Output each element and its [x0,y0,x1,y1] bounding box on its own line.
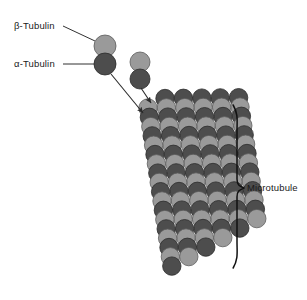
tubulin-subunit [231,219,249,237]
tubulin-subunit [248,209,266,227]
diagram-canvas: β-Tubulin α-Tubulin Microtubule [0,0,307,300]
microtubule-label: Microtubule [247,182,298,193]
alpha-tubulin-label: α-Tubulin [14,58,55,69]
free-alpha-tubulin-subunit [130,69,150,89]
beta-tubulin-label: β-Tubulin [14,20,55,31]
tubulin-subunit [163,257,181,275]
tubulin-subunit [197,238,215,256]
microtubule-figure: β-Tubulin α-Tubulin Microtubule [0,0,307,300]
tubulin-subunit [214,228,232,246]
leader-lines [63,26,95,64]
tubulin-dimers [94,35,150,89]
beta-tubulin-leader [63,26,95,41]
alpha-tubulin-subunit [94,53,116,75]
tubulin-subunit [180,247,198,265]
